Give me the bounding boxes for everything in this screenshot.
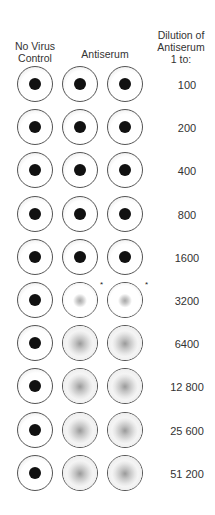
diffuse-lattice [63, 456, 97, 490]
rbc-button-dot [29, 208, 41, 220]
dilution-label: 12 800 [158, 381, 215, 393]
asterisk-mark: * [100, 280, 103, 289]
header-dilution: Dilution of Antiserum 1 to: [148, 29, 214, 65]
plate-row: 200 [0, 109, 215, 149]
antiserum-well [107, 196, 143, 232]
plate-row: 25 600 [0, 412, 215, 452]
control-well [17, 325, 53, 361]
plate-row: 100 [0, 66, 215, 106]
control-well [17, 368, 53, 404]
antiserum-well [107, 109, 143, 145]
header-no-virus-control: No Virus Control [4, 40, 66, 64]
dilution-label: 25 600 [158, 425, 215, 437]
rbc-button-dot [29, 121, 41, 133]
diffuse-lattice [63, 413, 97, 447]
antiserum-well [107, 455, 143, 491]
control-well [17, 282, 53, 318]
plate-row: 51 200 [0, 455, 215, 495]
antiserum-well [107, 368, 143, 404]
control-well [17, 152, 53, 188]
control-well [17, 66, 53, 102]
antiserum-well [62, 152, 98, 188]
plate-row: 12 800 [0, 368, 215, 408]
antiserum-well [107, 325, 143, 361]
plate-row: 1600 [0, 239, 215, 279]
control-well [17, 455, 53, 491]
control-well [17, 109, 53, 145]
dilution-label: 3200 [158, 295, 215, 307]
header-antiserum: Antiserum [70, 48, 140, 60]
antiserum-well [107, 66, 143, 102]
dilution-label: 100 [158, 79, 215, 91]
antiserum-well [107, 239, 143, 275]
rbc-button-dot [119, 121, 131, 133]
rbc-button-dot [74, 251, 86, 263]
control-well [17, 196, 53, 232]
rbc-button-dot [74, 208, 86, 220]
diffuse-lattice [108, 326, 142, 360]
rbc-button-dot [29, 467, 41, 479]
header-control-line1: No Virus [4, 40, 66, 52]
faint-spot [108, 283, 142, 317]
antiserum-well [62, 66, 98, 102]
rbc-button-dot [74, 78, 86, 90]
rbc-button-dot [29, 251, 41, 263]
header-dilution-line3: 1 to: [148, 53, 214, 65]
antiserum-well [62, 196, 98, 232]
rbc-button-dot [119, 208, 131, 220]
dilution-label: 400 [158, 165, 215, 177]
control-well [17, 239, 53, 275]
antiserum-well [62, 368, 98, 404]
antiserum-well: * [62, 282, 98, 318]
dilution-label: 200 [158, 122, 215, 134]
rbc-button-dot [29, 380, 41, 392]
plate-row: 6400 [0, 325, 215, 365]
dilution-label: 800 [158, 209, 215, 221]
diffuse-lattice [108, 413, 142, 447]
header-dilution-line1: Dilution of [148, 29, 214, 41]
rbc-button-dot [29, 337, 41, 349]
control-well [17, 412, 53, 448]
rbc-button-dot [29, 294, 41, 306]
diffuse-lattice [63, 369, 97, 403]
dilution-label: 1600 [158, 252, 215, 264]
plate-row: 800 [0, 196, 215, 236]
antiserum-well [107, 152, 143, 188]
rbc-button-dot [119, 164, 131, 176]
antiserum-well [62, 109, 98, 145]
diffuse-lattice [108, 369, 142, 403]
antiserum-well [62, 455, 98, 491]
plate-row: **3200 [0, 282, 215, 322]
rbc-button-dot [74, 121, 86, 133]
antiserum-well: * [107, 282, 143, 318]
diffuse-lattice [108, 456, 142, 490]
rbc-button-dot [29, 78, 41, 90]
faint-spot [63, 283, 97, 317]
rbc-button-dot [29, 424, 41, 436]
asterisk-mark: * [145, 280, 148, 289]
antiserum-well [62, 412, 98, 448]
header-control-line2: Control [4, 52, 66, 64]
rbc-button-dot [29, 164, 41, 176]
dilution-label: 51 200 [158, 468, 215, 480]
antiserum-well [107, 412, 143, 448]
rbc-button-dot [119, 251, 131, 263]
antiserum-well [62, 325, 98, 361]
diffuse-lattice [63, 326, 97, 360]
header-dilution-line2: Antiserum [148, 41, 214, 53]
antiserum-well [62, 239, 98, 275]
rbc-button-dot [119, 78, 131, 90]
dilution-label: 6400 [158, 338, 215, 350]
rbc-button-dot [74, 164, 86, 176]
plate-row: 400 [0, 152, 215, 192]
